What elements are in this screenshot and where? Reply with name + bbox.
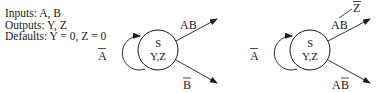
left-transition-ab: AB (176, 18, 217, 41)
transition-label-a: A (332, 78, 341, 92)
left-transition-b-bar: B (176, 60, 217, 92)
right-transition-ab: AB Z (328, 1, 370, 41)
state-outputs: Y,Z (150, 50, 166, 62)
transition-label-b: B (341, 78, 349, 92)
self-loop-label: A (98, 49, 107, 63)
left-state-node: S Y,Z (138, 30, 178, 70)
right-transition-a-b-bar: A B (328, 60, 370, 92)
left-state-diagram: A S Y,Z AB B (98, 18, 217, 92)
state-diagrams: A S Y,Z AB B A S (0, 0, 379, 93)
right-state-node: S Y,Z (290, 30, 330, 70)
output-action-leader (339, 9, 352, 18)
state-name: S (307, 37, 313, 49)
output-action-label: Z (353, 1, 360, 15)
transition-label: AB (331, 18, 348, 32)
state-outputs: Y,Z (302, 50, 318, 62)
self-loop-label: A (250, 49, 259, 63)
transition-label: B (183, 78, 191, 92)
transition-label: AB (180, 18, 197, 32)
right-state-diagram: A S Y,Z AB Z A B (250, 1, 370, 92)
state-name: S (155, 37, 161, 49)
